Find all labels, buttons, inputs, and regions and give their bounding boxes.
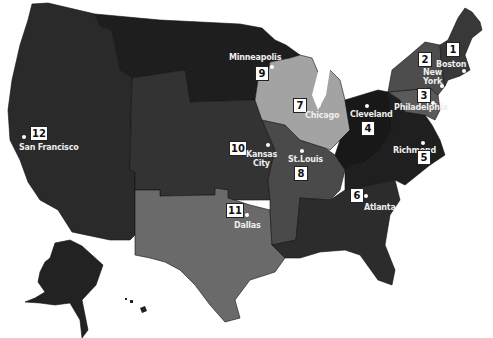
district-2-city-line1: New xyxy=(423,68,442,77)
district-3-marker xyxy=(431,101,435,105)
district-10-badge: 10 xyxy=(229,141,247,156)
district-2-badge: 2 xyxy=(418,52,432,67)
district-6-badge: 6 xyxy=(350,188,364,203)
district-8-marker xyxy=(300,149,304,153)
district-5-badge: 5 xyxy=(417,150,431,165)
district-5-marker xyxy=(421,141,425,145)
district-1-marker xyxy=(462,69,466,73)
district-2-marker xyxy=(440,84,444,88)
district-11-marker xyxy=(245,213,249,217)
district-12-city: San Francisco xyxy=(19,143,79,152)
district-6-city: Atlanta xyxy=(364,203,396,212)
us-map xyxy=(0,0,493,338)
district-11-region[interactable] xyxy=(135,188,285,322)
district-4-city: Cleveland xyxy=(350,110,392,119)
district-9-city: Minneapolis xyxy=(229,53,281,62)
district-11-badge: 11 xyxy=(226,203,244,218)
district-4-marker xyxy=(365,104,369,108)
district-7-marker xyxy=(317,103,321,107)
district-8-city: St.Louis xyxy=(288,155,323,164)
district-1-badge: 1 xyxy=(446,42,460,57)
district-10-marker xyxy=(266,143,270,147)
district-3-badge: 3 xyxy=(417,88,431,103)
district-12-marker xyxy=(22,135,26,139)
district-3-city: Philadelphia xyxy=(394,103,448,112)
hawaii-region[interactable] xyxy=(125,298,147,313)
district-7-city: Chicago xyxy=(305,111,339,120)
district-8-badge: 8 xyxy=(294,166,308,181)
district-9-marker xyxy=(270,65,274,69)
alaska-region[interactable] xyxy=(25,240,103,338)
district-9-badge: 9 xyxy=(255,66,269,81)
district-10-city-line2: City xyxy=(253,159,270,168)
district-11-city: Dallas xyxy=(234,221,260,230)
district-4-badge: 4 xyxy=(361,121,375,136)
district-6-marker xyxy=(364,194,368,198)
district-12-badge: 12 xyxy=(30,126,48,141)
district-10-city-line1: Kansas xyxy=(246,150,277,159)
